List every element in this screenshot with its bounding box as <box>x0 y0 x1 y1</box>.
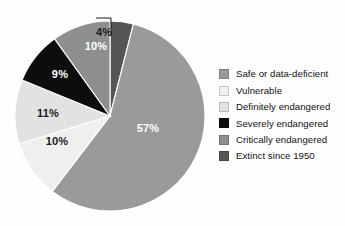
legend-item-label: Extinct since 1950 <box>236 151 315 161</box>
legend-item-label: Definitely endangered <box>236 102 330 112</box>
legend-item-1[interactable]: Vulnerable <box>219 82 343 98</box>
pie-slices <box>15 21 205 211</box>
legend-swatch-icon <box>219 86 229 96</box>
legend-swatch-icon <box>219 135 229 145</box>
legend-item-5[interactable]: Extinct since 1950 <box>219 148 343 164</box>
legend-swatch-icon <box>219 102 229 112</box>
legend-item-3[interactable]: Severely endangered <box>219 115 343 131</box>
legend-swatch-icon <box>219 69 229 79</box>
pie-svg <box>14 16 210 216</box>
legend-item-label: Severely endangered <box>236 119 328 129</box>
legend-swatch-icon <box>219 151 229 161</box>
chart-legend: Safe or data-deficientVulnerableDefinite… <box>219 66 343 164</box>
pie-plot-area: 57%10%11%9%10% 4% <box>14 16 210 216</box>
legend-item-4[interactable]: Critically endangered <box>219 132 343 148</box>
legend-item-label: Safe or data-deficient <box>236 69 328 79</box>
legend-item-2[interactable]: Definitely endangered <box>219 99 343 115</box>
legend-item-0[interactable]: Safe or data-deficient <box>219 66 343 82</box>
legend-item-label: Vulnerable <box>236 86 282 96</box>
legend-swatch-icon <box>219 118 229 128</box>
legend-item-label: Critically endangered <box>236 135 327 145</box>
pie-chart-figure: 57%10%11%9%10% 4% Safe or data-deficient… <box>0 0 345 226</box>
callout-label-4-percent: 4% <box>96 26 112 38</box>
